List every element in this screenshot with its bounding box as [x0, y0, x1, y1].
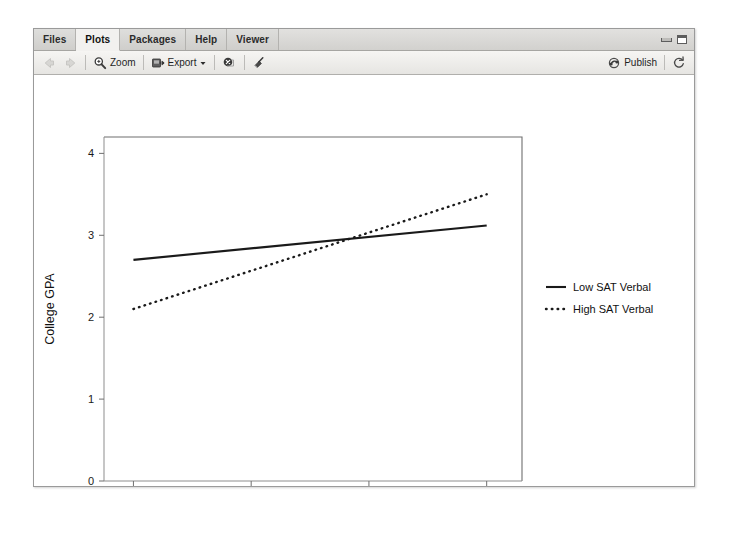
- tab-files-label: Files: [43, 34, 66, 45]
- tab-plots[interactable]: Plots: [76, 29, 120, 51]
- legend-label-1: High SAT Verbal: [573, 303, 653, 315]
- series-line-0: [133, 225, 486, 259]
- plots-pane: Files Plots Packages Help Viewer: [33, 28, 695, 487]
- plot-series: [133, 194, 486, 309]
- export-button-label: Export: [168, 57, 197, 68]
- legend-label-0: Low SAT Verbal: [573, 281, 651, 293]
- broom-icon: [252, 56, 267, 70]
- zoom-button[interactable]: Zoom: [89, 53, 140, 72]
- previous-plot-button[interactable]: [38, 53, 60, 72]
- toolbar-separator-4: [244, 55, 245, 70]
- y-axis-ticks: 01234: [88, 147, 104, 486]
- toolbar-separator-1: [85, 55, 86, 70]
- tab-strip-filler: [279, 29, 654, 50]
- tab-help-label: Help: [195, 34, 217, 45]
- forward-arrow-icon: [64, 56, 78, 70]
- x-axis: 200400600800 SAT Math: [104, 481, 522, 486]
- y-axis-title: College GPA: [43, 273, 57, 345]
- y-axis: 01234 College GPA: [43, 137, 104, 486]
- export-button[interactable]: Export: [147, 53, 212, 72]
- toolbar-separator-5: [664, 55, 665, 70]
- export-icon: [151, 56, 165, 70]
- remove-plot-button[interactable]: [218, 53, 241, 72]
- magnifier-icon: [93, 56, 107, 70]
- next-plot-button[interactable]: [60, 53, 82, 72]
- minimize-icon[interactable]: [661, 38, 672, 42]
- publish-icon: [607, 56, 621, 70]
- y-tick-label: 4: [88, 147, 94, 159]
- tab-files[interactable]: Files: [34, 29, 76, 50]
- tab-plots-label: Plots: [85, 34, 110, 45]
- y-tick-label: 2: [88, 311, 94, 323]
- refresh-button[interactable]: [668, 53, 690, 72]
- plot-panel-frame: [104, 137, 522, 481]
- pane-tab-strip: Files Plots Packages Help Viewer: [34, 29, 694, 51]
- window-controls: [654, 29, 694, 50]
- zoom-button-label: Zoom: [110, 57, 136, 68]
- y-tick-label: 3: [88, 229, 94, 241]
- plot-figure: 01234 College GPA 200400600800 SAT Math …: [34, 75, 694, 486]
- toolbar-separator-3: [214, 55, 215, 70]
- x-axis-ticks: 200400600800: [124, 481, 496, 486]
- back-arrow-icon: [42, 56, 56, 70]
- plot-legend: Low SAT VerbalHigh SAT Verbal: [546, 281, 653, 315]
- maximize-icon[interactable]: [677, 35, 687, 44]
- publish-button[interactable]: Publish: [603, 53, 661, 72]
- plot-canvas[interactable]: 01234 College GPA 200400600800 SAT Math …: [34, 75, 694, 486]
- y-tick-label: 1: [88, 393, 94, 405]
- publish-button-label: Publish: [624, 57, 657, 68]
- tab-viewer[interactable]: Viewer: [227, 29, 279, 50]
- chevron-down-icon: [199, 59, 207, 67]
- tab-viewer-label: Viewer: [236, 34, 269, 45]
- plots-toolbar: Zoom Export: [34, 51, 694, 75]
- series-line-1: [133, 194, 486, 309]
- clear-all-plots-button[interactable]: [248, 53, 271, 72]
- tab-packages-label: Packages: [129, 34, 176, 45]
- tab-packages[interactable]: Packages: [120, 29, 186, 50]
- remove-plot-icon: [222, 56, 237, 70]
- y-tick-label: 0: [88, 475, 94, 486]
- toolbar-separator-2: [143, 55, 144, 70]
- refresh-icon: [672, 56, 686, 70]
- tab-help[interactable]: Help: [186, 29, 227, 50]
